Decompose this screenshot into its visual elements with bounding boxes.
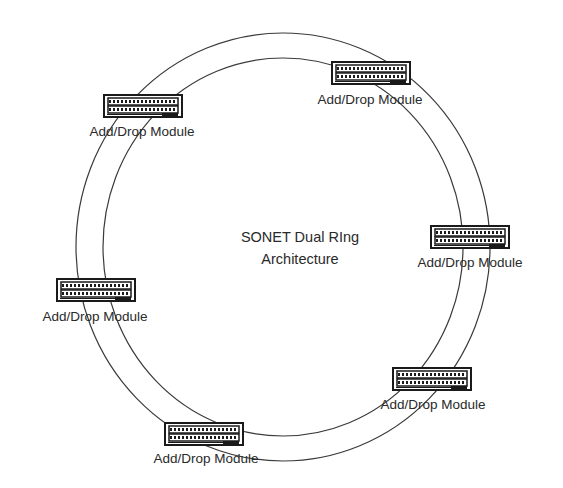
module-icon: [431, 226, 509, 248]
module-label: Add/Drop Module: [42, 309, 147, 324]
add-drop-module-bottom-right: Add/Drop Module: [380, 368, 485, 412]
module-label: Add/Drop Module: [153, 451, 258, 466]
diagram-title-line2: Architecture: [261, 251, 338, 267]
module-icon: [165, 423, 243, 445]
module-label: Add/Drop Module: [380, 397, 485, 412]
module-label: Add/Drop Module: [89, 124, 194, 139]
module-icon: [104, 95, 182, 117]
module-icon: [393, 368, 471, 390]
module-label: Add/Drop Module: [417, 255, 522, 270]
add-drop-module-right: Add/Drop Module: [417, 226, 522, 270]
diagram-title-line1: SONET Dual RIng: [241, 229, 359, 245]
add-drop-module-left: Add/Drop Module: [42, 279, 147, 324]
module-icon: [57, 279, 135, 301]
add-drop-module-top-left: Add/Drop Module: [89, 95, 194, 139]
module-icon: [332, 62, 410, 84]
sonet-dual-ring-diagram: SONET Dual RIng Architecture Add/Drop Mo…: [0, 0, 563, 488]
add-drop-module-top-right: Add/Drop Module: [317, 62, 422, 107]
module-label: Add/Drop Module: [317, 92, 422, 107]
add-drop-module-bottom: Add/Drop Module: [153, 423, 258, 466]
